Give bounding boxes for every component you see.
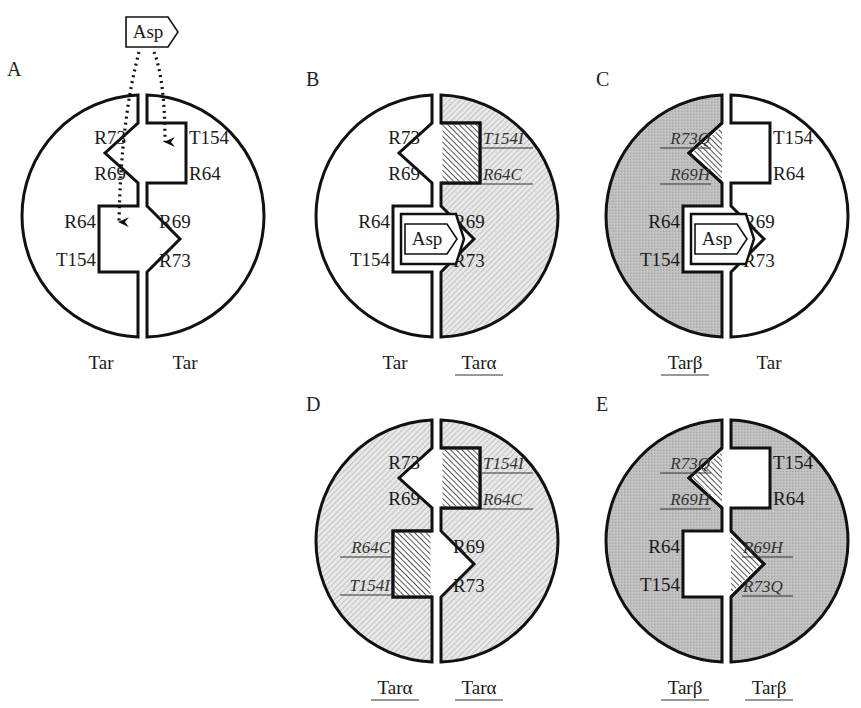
- residue-label: R73: [94, 127, 126, 148]
- residue-label: T154I: [483, 129, 525, 148]
- panel-letter: E: [596, 393, 608, 415]
- residue-label: R73Q: [742, 577, 783, 596]
- residue-label: T154: [640, 574, 681, 595]
- subunit-label-left: Tarα: [378, 677, 413, 698]
- panel-c: R73QR69HR64T154T154R64R69R73TarβTarCAsp: [596, 68, 848, 375]
- residue-label: T154I: [483, 454, 525, 473]
- bound-asp-ligand: Asp: [405, 224, 457, 254]
- residue-label: T154I: [349, 576, 391, 595]
- residue-label: R64: [648, 536, 680, 557]
- residue-label: R64: [773, 488, 805, 509]
- asp-label: Asp: [133, 21, 164, 42]
- asp-label: Asp: [702, 228, 733, 249]
- residue-label: R73Q: [669, 454, 710, 473]
- subunit-label-right: Tarβ: [752, 677, 787, 698]
- residue-label: R64C: [482, 490, 522, 509]
- residue-label: T154: [189, 127, 230, 148]
- panel-d: R73R69R64CT154IT154IR64CR69R73TarαTarαD: [306, 393, 558, 700]
- panel-b: R73R69R64T154T154IR64CR69R73TarTarαBAsp: [306, 68, 558, 375]
- residue-label: R69: [159, 211, 191, 232]
- mutation-block-alpha: [395, 533, 431, 596]
- subunit-label-left: Tarβ: [668, 352, 703, 373]
- residue-label: R64: [358, 211, 390, 232]
- residue-label: T154: [773, 127, 814, 148]
- subunit-label-left: Tar: [382, 352, 408, 373]
- panel-letter: A: [7, 58, 22, 80]
- residue-label: R64C: [482, 165, 522, 184]
- residue-label: T154: [773, 452, 814, 473]
- residue-label: R64: [648, 211, 680, 232]
- residue-label: R64C: [350, 538, 390, 557]
- residue-label: R73: [159, 250, 191, 271]
- residue-label: R69H: [742, 538, 784, 557]
- panel-e: R73QR69HR64T154T154R64R69HR73QTarβTarβE: [596, 393, 848, 700]
- residue-label: R69H: [669, 490, 711, 509]
- subunit-label-left: Tarβ: [668, 677, 703, 698]
- subunit-label-right: Tarα: [462, 352, 497, 373]
- residue-label: R69H: [669, 165, 711, 184]
- free-asp-ligand: Asp: [126, 17, 178, 47]
- asp-label: Asp: [412, 228, 443, 249]
- subunit-label-right: Tar: [756, 352, 782, 373]
- residue-label: R73: [388, 452, 420, 473]
- residue-label: R69: [453, 536, 485, 557]
- subunit-label-right: Tarα: [462, 677, 497, 698]
- figure-canvas: R73R69R64T154T154R64R69R73TarTarAAspR73R…: [0, 0, 861, 708]
- residue-label: R64: [773, 163, 805, 184]
- residue-label: R69: [388, 488, 420, 509]
- residue-label: R64: [64, 211, 96, 232]
- residue-label: T154: [56, 249, 97, 270]
- residue-label: T154: [640, 249, 681, 270]
- residue-label: R73Q: [669, 129, 710, 148]
- subunit-label-right: Tar: [172, 352, 198, 373]
- mutation-block-alpha: [443, 125, 479, 182]
- bound-asp-ligand: Asp: [695, 224, 747, 254]
- panel-letter: B: [306, 68, 319, 90]
- residue-label: R73: [388, 127, 420, 148]
- residue-label: R69: [388, 163, 420, 184]
- panel-letter: C: [596, 68, 609, 90]
- residue-label: T154: [350, 249, 391, 270]
- residue-label: R64: [189, 163, 221, 184]
- residue-label: R73: [453, 575, 485, 596]
- panel-letter: D: [306, 393, 320, 415]
- subunit-label-left: Tar: [88, 352, 114, 373]
- mutation-block-alpha: [443, 450, 479, 507]
- panel-a: R73R69R64T154T154R64R69R73TarTarAAsp: [7, 17, 264, 373]
